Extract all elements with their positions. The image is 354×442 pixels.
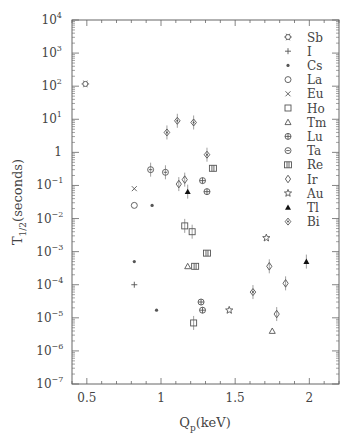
y-tick-label: 101 <box>42 110 62 126</box>
series-lu <box>198 178 210 314</box>
data-point <box>185 189 191 194</box>
legend-marker-icon <box>285 119 291 124</box>
svg-text:T1/2(seconds): T1/2(seconds) <box>10 159 28 245</box>
series-ta <box>148 163 169 180</box>
svg-text:10: 10 <box>42 13 57 27</box>
x-tick-label: 1.5 <box>226 391 245 405</box>
svg-text:3: 3 <box>57 44 62 53</box>
svg-text:10: 10 <box>36 245 51 259</box>
plot-frame <box>72 20 339 384</box>
svg-text:10: 10 <box>36 212 51 226</box>
svg-text:10: 10 <box>42 79 57 93</box>
series-i <box>131 282 137 288</box>
legend-item-au: Au <box>284 187 323 201</box>
legend-marker-icon <box>285 105 291 111</box>
legend-label: Bi <box>307 215 320 229</box>
legend-label: Sb <box>307 31 323 45</box>
legend-label: I <box>307 45 312 59</box>
data-point <box>132 186 137 191</box>
legend-item-lu: Lu <box>285 130 323 144</box>
x-tick-label: 1 <box>157 391 165 405</box>
y-tick-label: 104 <box>42 11 62 27</box>
y-tick-label: 10−3 <box>36 243 63 259</box>
legend-item-tm: Tm <box>285 116 327 130</box>
legend-marker-icon <box>284 34 292 41</box>
x-tick-label: 0.5 <box>77 391 96 405</box>
data-point <box>185 263 191 268</box>
series-au <box>226 234 270 313</box>
legend-label: Lu <box>307 130 323 144</box>
svg-text:4: 4 <box>57 11 62 20</box>
legend-label: Ir <box>307 173 318 187</box>
series-eu <box>132 186 137 191</box>
legend-item-i: I <box>285 45 312 59</box>
data-point <box>209 165 216 171</box>
series-ir <box>176 173 288 321</box>
y-tick-label: 10−2 <box>36 210 63 226</box>
y-tick-label: 10−1 <box>36 176 63 192</box>
legend-marker-icon <box>285 162 292 168</box>
y-tick-label: 103 <box>42 44 62 60</box>
svg-text:10: 10 <box>36 377 51 391</box>
svg-text:10: 10 <box>42 112 57 126</box>
legend-label: Tm <box>307 116 327 130</box>
x-tick-label: 2 <box>306 391 314 405</box>
data-point <box>263 234 270 241</box>
svg-text:10: 10 <box>36 344 51 358</box>
y-tick-label: 10−5 <box>36 309 63 325</box>
legend-item-re: Re <box>285 158 324 172</box>
data-point <box>82 81 90 88</box>
data-point <box>204 189 210 195</box>
legend-marker-icon <box>286 64 289 67</box>
data-point <box>155 309 158 312</box>
legend-label: Cs <box>307 59 322 73</box>
data-point <box>226 306 233 313</box>
legend-label: Au <box>306 187 324 201</box>
x-axis-ticks: 0.511.52 <box>72 20 339 405</box>
y-tick-label: 10−6 <box>36 342 63 358</box>
svg-text:−6: −6 <box>52 342 64 351</box>
data-point <box>198 299 204 305</box>
legend-label: Re <box>307 158 323 172</box>
series-la <box>131 202 137 208</box>
series-bi <box>164 114 256 299</box>
data-point <box>192 263 199 269</box>
y-tick-label: 1 <box>54 145 62 159</box>
legend-marker-icon <box>285 48 291 54</box>
y-tick-label: 10−4 <box>36 276 63 292</box>
svg-text:−1: −1 <box>52 176 64 185</box>
svg-text:1: 1 <box>54 145 62 159</box>
series-cs <box>133 204 158 312</box>
data-point <box>131 282 137 288</box>
y-tick-label: 10−7 <box>36 375 63 391</box>
data-point <box>200 307 206 313</box>
svg-text:−4: −4 <box>52 276 64 285</box>
legend-item-ta: Ta <box>285 144 321 158</box>
legend-label: Tl <box>307 201 319 215</box>
svg-text:−5: −5 <box>52 309 64 318</box>
legend-item-eu: Eu <box>286 87 324 101</box>
legend: SbICsLaEuHoTmLuTaReIrAuTlBi <box>284 31 327 230</box>
data-point <box>151 204 154 207</box>
legend-marker-icon <box>284 189 291 196</box>
series-ho <box>182 219 197 330</box>
y-axis-label: T1/2(seconds) <box>10 159 28 245</box>
svg-text:2: 2 <box>57 77 62 86</box>
svg-text:−2: −2 <box>52 210 64 219</box>
legend-marker-icon <box>285 77 291 83</box>
legend-item-sb: Sb <box>284 31 323 45</box>
legend-marker-icon <box>285 148 291 154</box>
series-tm <box>185 263 276 333</box>
legend-label: La <box>307 73 322 87</box>
svg-text:10: 10 <box>42 46 57 60</box>
legend-marker-icon <box>286 91 291 96</box>
y-axis-ticks: 104103102101110−110−210−310−410−510−610−… <box>36 11 339 391</box>
data-point <box>200 178 206 184</box>
data-point <box>203 250 210 256</box>
svg-text:Qp(keV): Qp(keV) <box>179 415 231 433</box>
svg-text:10: 10 <box>36 311 51 325</box>
legend-item-tl: Tl <box>285 201 319 215</box>
legend-marker-icon <box>285 218 291 225</box>
legend-item-ho: Ho <box>285 102 325 116</box>
legend-item-ir: Ir <box>285 173 317 187</box>
